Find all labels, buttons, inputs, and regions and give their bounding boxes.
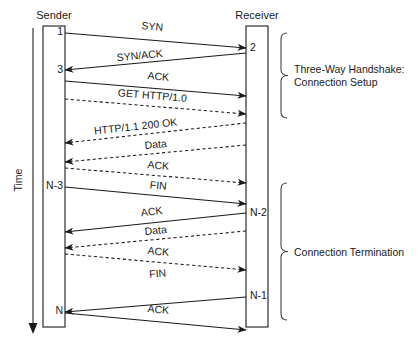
phase-groups-layer: Three-Way Handshake:Connection SetupConn… <box>281 33 405 320</box>
receiver-sequence-number: 2 <box>250 41 256 53</box>
messages-layer: SYNSYN/ACKACKGET HTTP/1.0HTTP/1.1 200 OK… <box>65 19 246 330</box>
group-label-line: Connection Termination <box>294 246 404 258</box>
message-ack: ACK <box>65 244 246 270</box>
message-label: ACK <box>147 244 170 258</box>
phase-group: Three-Way Handshake:Connection Setup <box>281 33 405 118</box>
receiver-column-header: Receiver <box>235 9 279 21</box>
tcp-sequence-diagram: Sender Receiver Time SYNSYN/ACKACKGET HT… <box>0 0 418 345</box>
message-arrow <box>65 33 246 48</box>
message-label: GET HTTP/1.0 <box>117 86 187 104</box>
sender-sequence-number: 3 <box>57 63 63 75</box>
message-label: ACK <box>147 158 170 172</box>
diagram-canvas: Sender Receiver Time SYNSYN/ACKACKGET HT… <box>0 0 418 345</box>
time-axis <box>29 28 38 334</box>
phase-group: Connection Termination <box>281 183 404 320</box>
time-axis-label: Time <box>12 168 24 191</box>
message-arrow <box>65 313 246 330</box>
message-label: SYN <box>141 19 164 33</box>
message-label: ACK <box>147 69 170 83</box>
message-get-http-1-0: GET HTTP/1.0 <box>65 86 246 114</box>
message-syn: SYN <box>65 19 246 48</box>
message-fin: FIN <box>65 178 246 204</box>
sender-sequence-number: N-3 <box>46 179 63 191</box>
message-label: HTTP/1.1 200 OK <box>93 115 177 136</box>
receiver-lifeline <box>246 26 268 327</box>
group-brace <box>281 33 288 118</box>
sender-column-header: Sender <box>36 9 72 21</box>
message-label: FIN <box>149 178 167 192</box>
message-ack: ACK <box>65 302 246 330</box>
message-label: ACK <box>140 204 163 218</box>
message-syn-ack: SYN/ACK <box>65 47 246 70</box>
group-label-line: Three-Way Handshake: <box>294 63 405 75</box>
message-label: ACK <box>147 302 170 316</box>
group-brace <box>281 183 288 320</box>
message-label: SYN/ACK <box>116 47 163 63</box>
message-label: Data <box>144 137 167 151</box>
receiver-sequence-number: N-1 <box>250 289 267 301</box>
message-label: Data <box>144 223 167 237</box>
group-label-line: Connection Setup <box>294 76 378 88</box>
receiver-sequence-number: N-2 <box>250 206 267 218</box>
sender-sequence-number: 1 <box>57 25 63 37</box>
sender-sequence-number: N <box>55 304 63 316</box>
message-label: FIN <box>149 266 167 279</box>
